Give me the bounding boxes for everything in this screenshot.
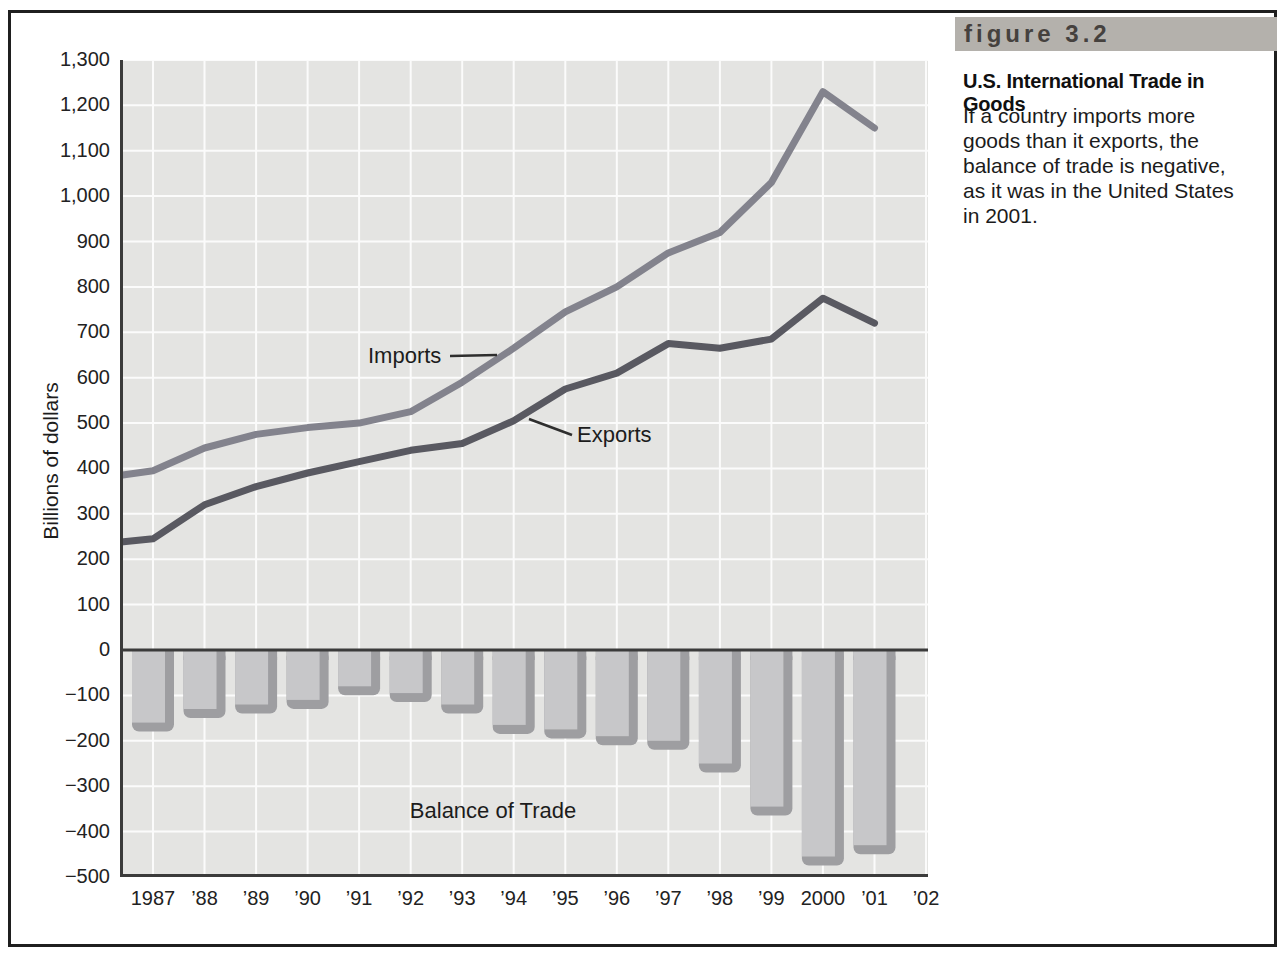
x-tick-89: ’89 <box>243 887 270 910</box>
imports-series-label: Imports <box>368 343 441 369</box>
y-tick-400: 400 <box>0 456 110 480</box>
x-tick-02: ’02 <box>913 887 940 910</box>
x-tick-2000: 2000 <box>801 887 846 910</box>
x-tick-99: ’99 <box>758 887 785 910</box>
figure-number: figure 3.2 <box>955 17 1277 50</box>
x-tick-96: ’96 <box>603 887 630 910</box>
x-tick-94: ’94 <box>500 887 527 910</box>
y-tick--300: −300 <box>0 774 110 798</box>
x-tick-90: ’90 <box>294 887 321 910</box>
figure-page: Billions of dollars Imports Exports Bala… <box>0 0 1285 956</box>
x-tick-1987: 1987 <box>131 887 176 910</box>
figure-caption: If a country imports more goods than it … <box>963 103 1271 228</box>
exports-series-label: Exports <box>577 422 652 448</box>
y-tick-1300: 1,300 <box>0 48 110 72</box>
x-tick-95: ’95 <box>552 887 579 910</box>
y-tick-300: 300 <box>0 502 110 526</box>
plot-area: Imports Exports Balance of Trade <box>120 60 928 877</box>
x-tick-92: ’92 <box>397 887 424 910</box>
y-tick--100: −100 <box>0 683 110 707</box>
y-tick-1100: 1,100 <box>0 139 110 163</box>
y-tick-700: 700 <box>0 320 110 344</box>
y-tick-1000: 1,000 <box>0 184 110 208</box>
x-tick-97: ’97 <box>655 887 682 910</box>
x-tick-88: ’88 <box>191 887 218 910</box>
x-tick-01: ’01 <box>861 887 888 910</box>
y-tick-800: 800 <box>0 275 110 299</box>
balance-of-trade-label: Balance of Trade <box>410 798 576 824</box>
y-tick-100: 100 <box>0 593 110 617</box>
x-tick-91: ’91 <box>346 887 373 910</box>
chart-canvas <box>120 60 928 877</box>
y-tick-200: 200 <box>0 547 110 571</box>
y-tick-500: 500 <box>0 411 110 435</box>
y-tick-600: 600 <box>0 366 110 390</box>
y-tick--500: −500 <box>0 865 110 889</box>
figure-number-banner: figure 3.2 <box>955 17 1277 51</box>
y-tick-0: 0 <box>0 638 110 662</box>
y-tick--200: −200 <box>0 729 110 753</box>
x-tick-93: ’93 <box>449 887 476 910</box>
y-tick-900: 900 <box>0 230 110 254</box>
x-tick-98: ’98 <box>707 887 734 910</box>
y-tick-1200: 1,200 <box>0 93 110 117</box>
y-tick--400: −400 <box>0 820 110 844</box>
